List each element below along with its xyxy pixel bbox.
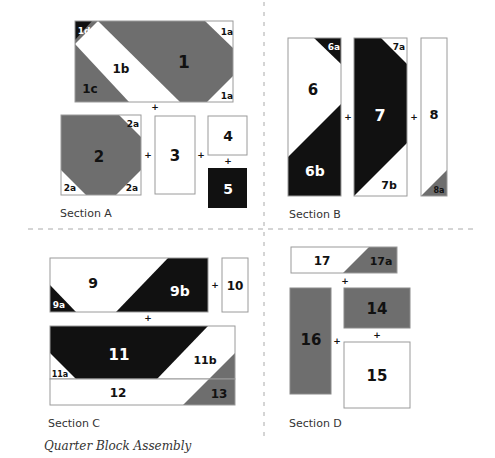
block-17: 17 17a bbox=[291, 247, 397, 273]
piece-9-label: 9 bbox=[88, 275, 98, 291]
piece-1-label: 1 bbox=[178, 52, 190, 72]
block-1: 1 1a 1a 1b 1c 1d bbox=[75, 21, 233, 102]
piece-2a-bottom-right-label: 2a bbox=[126, 183, 138, 193]
piece-4-label: 4 bbox=[223, 128, 233, 144]
section-b: 6 6a 6b + 7 7a 7b + 8 8a bbox=[288, 38, 447, 196]
join-plus: + bbox=[151, 102, 159, 112]
piece-3-label: 3 bbox=[170, 147, 180, 165]
piece-2a-top-right-label: 2a bbox=[127, 119, 139, 129]
piece-8-label: 8 bbox=[429, 107, 438, 122]
piece-9b-label: 9b bbox=[170, 283, 190, 299]
piece-12-label: 12 bbox=[110, 386, 127, 400]
block-5: 5 bbox=[208, 168, 247, 208]
piece-7a-label: 7a bbox=[393, 42, 405, 52]
piece-1a-top-label: 1a bbox=[221, 27, 233, 37]
block-9: 9 9a 9b bbox=[50, 258, 208, 312]
block-2: 2 2a 2a 2a bbox=[61, 115, 141, 195]
section-b-caption: Section B bbox=[289, 208, 341, 221]
block-3: 3 bbox=[155, 116, 195, 194]
block-14: 14 bbox=[344, 288, 410, 328]
piece-1a-bottom-label: 1a bbox=[221, 91, 233, 101]
block-6: 6 6a 6b bbox=[288, 38, 341, 196]
block-10: 10 bbox=[222, 258, 248, 312]
join-plus: + bbox=[373, 330, 381, 340]
piece-11-label: 11 bbox=[109, 346, 130, 364]
piece-13-label: 13 bbox=[211, 387, 228, 401]
piece-1d-label: 1d bbox=[78, 26, 91, 36]
block-4: 4 bbox=[208, 116, 247, 155]
piece-8a-label: 8a bbox=[434, 186, 445, 195]
piece-2-label: 2 bbox=[94, 148, 104, 166]
piece-11b-label: 11b bbox=[193, 354, 216, 367]
piece-17-label: 17 bbox=[314, 254, 331, 268]
join-plus: + bbox=[197, 150, 205, 160]
piece-10-label: 10 bbox=[227, 279, 244, 293]
join-plus: + bbox=[333, 336, 341, 346]
block-7: 7 7a 7b bbox=[354, 38, 407, 196]
join-plus: + bbox=[211, 280, 219, 290]
join-plus: + bbox=[144, 150, 152, 160]
quarter-block-diagram: 1 1a 1a 1b 1c 1d + 2 2a 2a 2a + 3 + bbox=[0, 0, 495, 458]
join-plus: + bbox=[341, 276, 349, 286]
block-16: 16 bbox=[290, 288, 331, 394]
piece-1b-label: 1b bbox=[113, 62, 130, 76]
section-a-caption: Section A bbox=[60, 207, 112, 220]
section-a: 1 1a 1a 1b 1c 1d + 2 2a 2a 2a + 3 + bbox=[61, 21, 247, 208]
block-8: 8 8a bbox=[421, 38, 447, 196]
piece-5-label: 5 bbox=[223, 181, 233, 197]
figure-title: Quarter Block Assembly bbox=[44, 439, 191, 453]
piece-11a-label: 11a bbox=[52, 370, 69, 379]
block-11: 11 11a 11b bbox=[50, 326, 235, 379]
join-plus: + bbox=[344, 112, 352, 122]
block-15: 15 bbox=[344, 342, 410, 408]
piece-16-label: 16 bbox=[301, 331, 322, 349]
piece-15-label: 15 bbox=[367, 367, 388, 385]
section-d: 17 17a + 16 + 14 + 15 bbox=[290, 247, 410, 408]
piece-2a-bottom-left-label: 2a bbox=[64, 183, 76, 193]
piece-7-label: 7 bbox=[374, 106, 385, 125]
section-c-caption: Section C bbox=[48, 417, 100, 430]
piece-6a-label: 6a bbox=[328, 42, 340, 52]
piece-7b-label: 7b bbox=[381, 179, 397, 192]
piece-6b-label: 6b bbox=[305, 163, 325, 179]
piece-1c-label: 1c bbox=[82, 82, 97, 96]
section-d-caption: Section D bbox=[289, 417, 342, 430]
block-12-13: 12 13 bbox=[50, 379, 235, 405]
join-plus: + bbox=[410, 112, 418, 122]
piece-6-label: 6 bbox=[308, 81, 318, 99]
piece-14-label: 14 bbox=[367, 300, 388, 318]
piece-9a-label: 9a bbox=[53, 300, 65, 310]
join-plus: + bbox=[144, 313, 152, 323]
piece-17a-label: 17a bbox=[370, 255, 393, 268]
section-c: 9 9a 9b + 10 + 11 11a 11b 12 13 bbox=[50, 258, 248, 405]
join-plus: + bbox=[224, 156, 232, 166]
